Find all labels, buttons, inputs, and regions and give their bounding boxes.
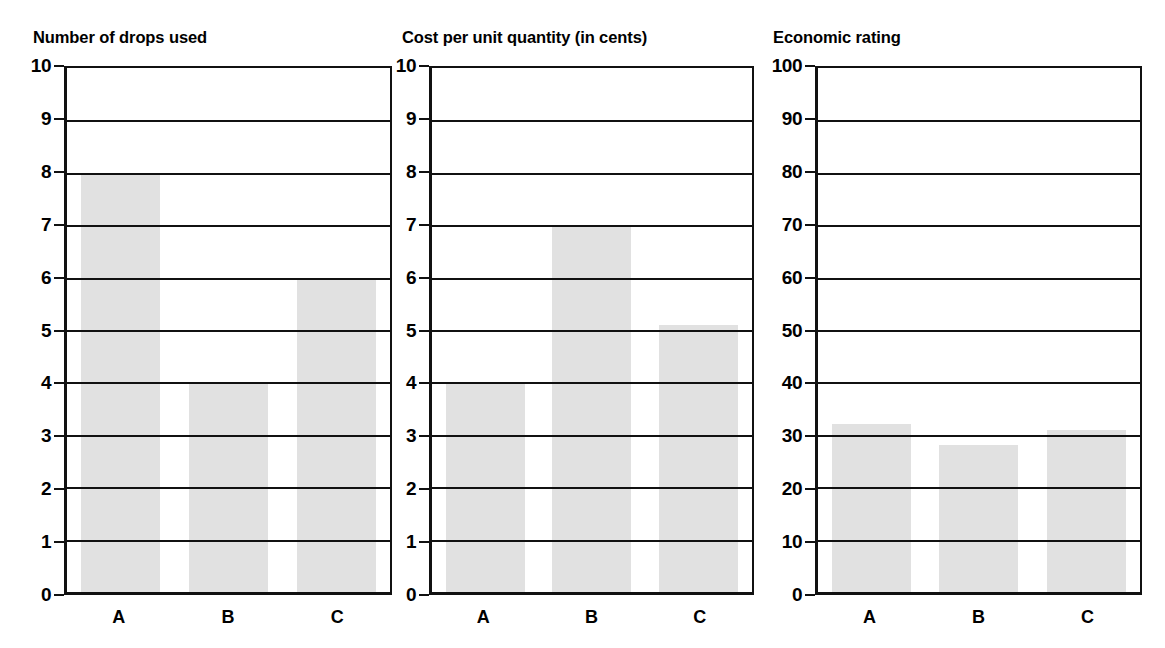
y-axis-tick: 3: [406, 426, 429, 446]
bar-group: [432, 68, 752, 592]
y-axis-tick-label: 5: [41, 321, 51, 341]
y-axis-tick-label: 4: [41, 373, 51, 393]
y-axis-tick-mark: [54, 330, 64, 332]
x-axis-tick-label: B: [939, 606, 1018, 628]
y-axis: 0102030405060708090100: [751, 66, 815, 595]
y-axis-tick-mark: [54, 118, 64, 120]
y-axis-tick-label: 70: [782, 215, 802, 235]
y-axis-tick-mark: [54, 171, 64, 173]
y-axis-tick-mark: [54, 594, 64, 596]
y-axis-tick-label: 8: [41, 162, 51, 182]
y-axis-tick-mark: [419, 171, 429, 173]
y-axis-tick-mark: [805, 594, 815, 596]
y-axis-tick: 0: [792, 585, 815, 605]
x-axis-tick-label: C: [298, 606, 377, 628]
y-axis-tick: 9: [406, 109, 429, 129]
y-axis-tick: 1: [406, 532, 429, 552]
y-axis-tick: 4: [41, 373, 64, 393]
y-axis-tick-label: 0: [406, 585, 416, 605]
y-axis-tick-label: 60: [782, 268, 802, 288]
y-axis-tick: 8: [41, 162, 64, 182]
y-axis-tick-mark: [805, 488, 815, 490]
bar-chart-figure: Number of drops used012345678910ABCCost …: [0, 0, 1165, 648]
x-axis-tick-label: C: [1048, 606, 1127, 628]
y-axis-tick-mark: [805, 171, 815, 173]
y-axis-tick-label: 5: [406, 321, 416, 341]
y-axis-tick-label: 6: [41, 268, 51, 288]
y-axis-tick: 80: [782, 162, 815, 182]
bar-a: [81, 173, 160, 592]
y-axis-tick: 5: [406, 321, 429, 341]
y-axis-tick-mark: [419, 435, 429, 437]
y-axis-tick: 0: [41, 585, 64, 605]
y-axis-tick-mark: [54, 382, 64, 384]
chart-title: Cost per unit quantity (in cents): [402, 27, 647, 47]
y-axis-tick-label: 9: [406, 109, 416, 129]
y-axis-tick-mark: [419, 330, 429, 332]
y-axis-tick-mark: [419, 224, 429, 226]
y-axis-tick-label: 7: [41, 215, 51, 235]
bar-group: [67, 68, 390, 592]
y-axis-tick-label: 3: [41, 426, 51, 446]
y-axis-tick-label: 0: [792, 585, 802, 605]
x-axis-tick-label: B: [188, 606, 267, 628]
y-axis-tick-label: 50: [782, 321, 802, 341]
y-axis-tick: 2: [41, 479, 64, 499]
chart-panel-3: Economic rating0102030405060708090100ABC: [765, 0, 1165, 648]
y-axis-tick: 1: [41, 532, 64, 552]
y-axis-tick-label: 2: [406, 479, 416, 499]
y-axis-tick-mark: [805, 277, 815, 279]
y-axis-tick: 10: [396, 56, 429, 76]
y-axis-tick-label: 30: [782, 426, 802, 446]
y-axis-tick-mark: [805, 541, 815, 543]
y-axis-tick-mark: [805, 118, 815, 120]
y-axis-tick-mark: [419, 594, 429, 596]
y-axis-tick: 5: [41, 321, 64, 341]
y-axis-tick-mark: [805, 382, 815, 384]
x-axis: ABC: [429, 606, 754, 636]
y-axis-tick: 6: [406, 268, 429, 288]
y-axis: 012345678910: [365, 66, 429, 595]
x-axis: ABC: [815, 606, 1142, 636]
y-axis: 012345678910: [0, 66, 64, 595]
y-axis-tick: 10: [782, 532, 815, 552]
bar-b: [552, 225, 631, 592]
y-axis-tick: 30: [782, 426, 815, 446]
y-axis-tick: 10: [31, 56, 64, 76]
y-axis-tick: 70: [782, 215, 815, 235]
y-axis-tick-label: 6: [406, 268, 416, 288]
y-axis-tick-label: 3: [406, 426, 416, 446]
y-axis-tick-label: 1: [406, 532, 416, 552]
y-axis-tick: 9: [41, 109, 64, 129]
plot-area: [64, 66, 392, 595]
y-axis-tick: 90: [782, 109, 815, 129]
plot-area: [429, 66, 754, 595]
bar-b: [189, 382, 268, 592]
y-axis-tick-mark: [54, 224, 64, 226]
y-axis-tick-mark: [419, 488, 429, 490]
y-axis-tick-label: 10: [31, 56, 51, 76]
bar-c: [659, 325, 738, 592]
y-axis-tick: 0: [406, 585, 429, 605]
bar-group: [818, 68, 1140, 592]
bar-a: [832, 424, 911, 592]
y-axis-tick: 50: [782, 321, 815, 341]
x-axis-tick-label: A: [830, 606, 909, 628]
y-axis-tick: 3: [41, 426, 64, 446]
y-axis-tick: 20: [782, 479, 815, 499]
y-axis-tick: 7: [406, 215, 429, 235]
y-axis-tick-mark: [54, 65, 64, 67]
y-axis-tick-label: 9: [41, 109, 51, 129]
y-axis-tick-label: 4: [406, 373, 416, 393]
x-axis-tick-label: A: [79, 606, 158, 628]
y-axis-tick-label: 10: [782, 532, 802, 552]
x-axis-tick-label: A: [444, 606, 523, 628]
bar-c: [297, 278, 376, 592]
x-axis-tick-label: B: [552, 606, 631, 628]
y-axis-tick-mark: [54, 435, 64, 437]
y-axis-tick-mark: [805, 65, 815, 67]
y-axis-tick-mark: [419, 541, 429, 543]
x-axis: ABC: [64, 606, 392, 636]
bar-c: [1047, 430, 1126, 592]
y-axis-tick: 7: [41, 215, 64, 235]
